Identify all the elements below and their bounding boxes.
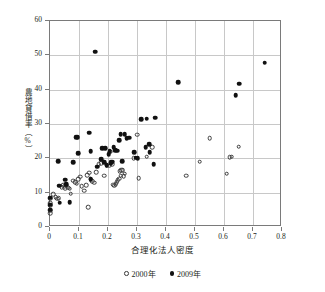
- data-point: [56, 159, 61, 164]
- data-point: [69, 191, 74, 196]
- legend-item[interactable]: 2009年: [170, 268, 202, 279]
- filled-circle-icon: [170, 271, 175, 276]
- legend-item-label: 2000年: [132, 268, 156, 279]
- data-point: [87, 130, 92, 135]
- x-axis-tick-label: 0.1: [66, 233, 90, 241]
- data-point: [86, 205, 91, 210]
- y-axis-tick-label: 10: [28, 188, 42, 196]
- x-axis-tick-mark: [165, 227, 166, 231]
- data-point: [152, 162, 157, 167]
- x-axis-tick-mark: [136, 227, 137, 231]
- x-axis-tick-mark: [252, 227, 253, 231]
- x-axis-tick-label: 0.5: [182, 233, 206, 241]
- x-axis-tick-mark: [281, 227, 282, 231]
- data-point: [48, 208, 53, 213]
- data-point: [115, 148, 120, 153]
- y-axis-tick-mark: [45, 54, 49, 55]
- gridline-vertical: [79, 21, 80, 225]
- x-axis-title: 合理化法人密度: [0, 243, 325, 255]
- legend-item[interactable]: 2000年: [124, 268, 156, 279]
- y-axis-tick-label: 30: [28, 119, 42, 127]
- y-axis-tick-mark: [45, 89, 49, 90]
- data-point: [153, 116, 158, 121]
- y-axis-tick-label: 40: [28, 85, 42, 93]
- data-point: [207, 136, 212, 141]
- x-axis-tick-label: 0.8: [269, 233, 293, 241]
- data-point: [110, 159, 115, 164]
- scatter-chart: 農地貸借率（%） 010203040506000.10.20.30.40.50.…: [0, 0, 325, 292]
- data-point: [139, 117, 144, 122]
- data-point: [233, 93, 238, 98]
- gridline-vertical: [195, 21, 196, 225]
- x-axis-tick-label: 0.3: [124, 233, 148, 241]
- data-point: [236, 144, 241, 149]
- y-axis-tick-label: 0: [28, 222, 42, 230]
- data-point: [197, 159, 202, 164]
- x-axis-tick-label: 0.4: [153, 233, 177, 241]
- data-point: [94, 170, 99, 175]
- x-axis-tick-mark: [223, 227, 224, 231]
- y-axis-tick-label: 50: [28, 50, 42, 58]
- data-point: [48, 202, 53, 207]
- data-point: [88, 149, 93, 154]
- gridline-horizontal: [50, 55, 280, 56]
- data-point: [67, 200, 72, 205]
- data-point: [71, 160, 76, 165]
- data-point: [229, 154, 234, 159]
- gridline-vertical: [253, 21, 254, 225]
- data-point: [145, 154, 150, 159]
- y-axis-tick-mark: [45, 20, 49, 21]
- y-axis-tick-label: 20: [28, 153, 42, 161]
- data-point: [127, 135, 132, 140]
- x-axis-tick-label: 0: [37, 233, 61, 241]
- data-point: [93, 50, 98, 55]
- x-axis-tick-label: 0.6: [211, 233, 235, 241]
- plot-area: [49, 20, 281, 226]
- data-point: [123, 171, 128, 176]
- y-axis-tick-label: 60: [28, 16, 42, 24]
- y-axis-tick-mark: [45, 157, 49, 158]
- x-axis-tick-mark: [49, 227, 50, 231]
- data-point: [135, 156, 140, 161]
- data-point: [95, 164, 100, 169]
- x-axis-tick-mark: [194, 227, 195, 231]
- gridline-horizontal: [50, 124, 280, 125]
- data-point: [120, 159, 125, 164]
- data-point: [145, 116, 150, 121]
- data-point: [58, 200, 63, 205]
- data-point: [67, 186, 72, 191]
- x-axis-tick-mark: [78, 227, 79, 231]
- gridline-vertical: [108, 21, 109, 225]
- data-point: [88, 177, 93, 182]
- data-point: [57, 184, 62, 189]
- data-point: [74, 181, 79, 186]
- chart-legend: 2000年2009年: [0, 268, 325, 279]
- x-axis-tick-label: 0.2: [95, 233, 119, 241]
- gridline-horizontal: [50, 90, 280, 91]
- data-point: [225, 171, 230, 176]
- x-axis-tick-mark: [107, 227, 108, 231]
- gridline-vertical: [224, 21, 225, 225]
- data-point: [136, 176, 141, 181]
- y-axis-tick-mark: [45, 123, 49, 124]
- data-point: [132, 150, 137, 155]
- data-point: [76, 135, 81, 140]
- data-point: [147, 142, 152, 147]
- gridline-horizontal: [50, 158, 280, 159]
- gridline-vertical: [166, 21, 167, 225]
- open-circle-icon: [124, 271, 129, 276]
- data-point: [176, 80, 181, 85]
- data-point: [262, 61, 267, 66]
- data-point: [87, 170, 92, 175]
- data-point: [147, 150, 152, 155]
- data-point: [102, 174, 107, 179]
- data-point: [48, 196, 53, 201]
- x-axis-tick-label: 0.7: [240, 233, 264, 241]
- data-point: [82, 188, 87, 193]
- y-axis-tick-mark: [45, 192, 49, 193]
- gridline-vertical: [137, 21, 138, 225]
- data-point: [135, 132, 140, 137]
- data-point: [84, 183, 89, 188]
- legend-item-label: 2009年: [177, 268, 201, 279]
- data-point: [76, 151, 81, 156]
